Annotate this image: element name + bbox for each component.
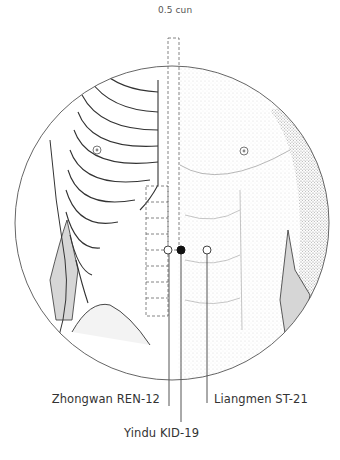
torso-illustration [50, 60, 330, 400]
label-zhongwan-ren12: Zhongwan REN-12 [52, 392, 160, 406]
point-yindu-kid19 [177, 246, 185, 254]
acupuncture-diagram [0, 0, 340, 460]
rib-cage [66, 70, 158, 303]
measure-column [168, 38, 179, 250]
label-yindu-kid19: Yindu KID-19 [124, 426, 199, 440]
point-zhongwan-ren12 [164, 246, 172, 254]
left-flank-shade [50, 220, 78, 320]
point-liangmen-st21 [203, 246, 211, 254]
label-liangmen-st21: Liangmen ST-21 [214, 392, 308, 406]
measure-label: 0.5 cun [158, 5, 192, 15]
